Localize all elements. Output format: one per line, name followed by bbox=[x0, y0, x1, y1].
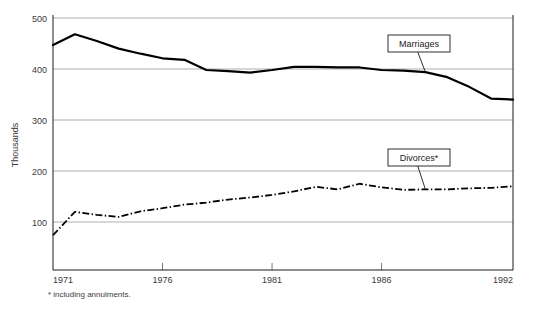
x-tick-label-1981: 1981 bbox=[262, 275, 282, 285]
y-tick-label-400: 400 bbox=[32, 65, 47, 75]
y-tick-label-300: 300 bbox=[32, 116, 47, 126]
y-tick-label-100: 100 bbox=[32, 218, 47, 228]
callout-label-marriages: Marriages bbox=[399, 39, 440, 49]
callout-label-divorces: Divorces* bbox=[400, 153, 439, 163]
x-tick-label-1976: 1976 bbox=[153, 275, 173, 285]
footnote-text: * including annulments. bbox=[48, 290, 131, 299]
callout-marriages: Marriages bbox=[388, 35, 450, 72]
x-axis-tick-labels-group: 19711976198119861992 bbox=[53, 275, 513, 285]
callout-leader-divorces bbox=[418, 166, 426, 189]
y-axis-tick-labels-group: 100200300400500 bbox=[32, 14, 47, 228]
chart-container: 100200300400500 19711976198119861992 Tho… bbox=[0, 0, 544, 311]
y-axis-title: Thousands bbox=[10, 122, 20, 167]
line-chart: 100200300400500 19711976198119861992 Tho… bbox=[0, 0, 544, 311]
callout-divorces: Divorces* bbox=[388, 149, 450, 189]
x-tick-label-1992: 1992 bbox=[493, 275, 513, 285]
y-tick-label-500: 500 bbox=[32, 14, 47, 24]
x-tickmarks-group bbox=[163, 263, 382, 270]
x-tick-label-1986: 1986 bbox=[372, 275, 392, 285]
y-tick-label-200: 200 bbox=[32, 167, 47, 177]
x-tick-label-1971: 1971 bbox=[53, 275, 73, 285]
series-line-divorces bbox=[53, 184, 513, 236]
